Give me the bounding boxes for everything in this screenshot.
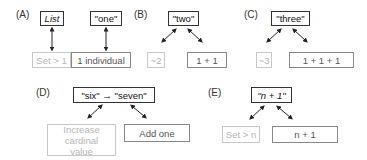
approx-3-box: ~3	[256, 52, 272, 68]
increase-cardinal-value-box: Increase cardinal value	[47, 124, 116, 156]
set-gt-1-box: Set > 1	[32, 52, 71, 68]
one-box: "one"	[90, 11, 122, 26]
one-individual-box: 1 individual	[71, 52, 131, 68]
set-gt-n-box: Set > n	[222, 126, 260, 143]
six-to-seven-box: "six" → "seven"	[73, 87, 155, 103]
panel-d-label: (D)	[36, 87, 50, 98]
approx-2-box: ~2	[147, 52, 165, 68]
panel-e-label: (E)	[208, 87, 221, 98]
add-one-box: Add one	[124, 124, 190, 142]
list-box: List	[40, 11, 64, 26]
panel-b-label: (B)	[134, 9, 147, 20]
one-plus-one-plus-one-box: 1 + 1 + 1	[289, 52, 354, 68]
three-box: "three"	[271, 11, 310, 26]
n-plus-1-top-box: "n + 1"	[251, 87, 292, 103]
two-box: "two"	[168, 11, 199, 26]
n-plus-1-bottom-box: n + 1	[272, 126, 338, 143]
panel-a-label: (A)	[16, 9, 29, 20]
panel-c-label: (C)	[244, 9, 258, 20]
one-plus-one-box: 1 + 1	[187, 52, 227, 68]
